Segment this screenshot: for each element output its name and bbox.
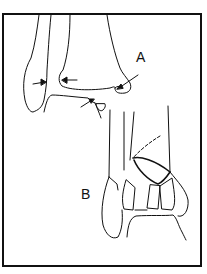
panel-b-tibia-fragments <box>123 158 189 217</box>
panel-b-talus <box>127 215 186 240</box>
panel-b-fibula <box>102 177 122 238</box>
panel-a-fibula <box>24 15 51 112</box>
ankle-fracture-illustration <box>0 0 207 274</box>
panel-label-b: B <box>81 187 90 201</box>
panel-a-arrows <box>33 75 138 107</box>
panel-label-a: A <box>136 50 145 64</box>
panel-a-talus <box>44 95 105 118</box>
panel-a-tibia <box>59 15 131 93</box>
